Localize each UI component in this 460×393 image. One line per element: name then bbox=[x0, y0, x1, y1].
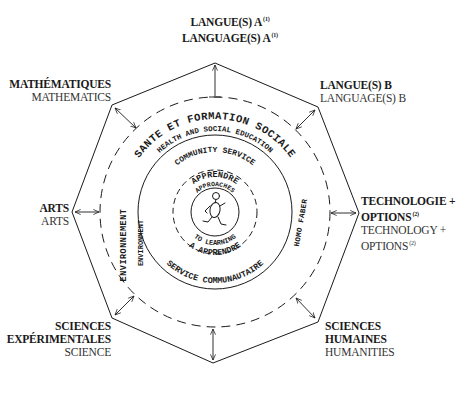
arrow-top-left bbox=[115, 108, 136, 128]
label-sciences-humaines: SCIENCES HUMAINES HUMANITIES bbox=[325, 320, 395, 359]
arrow-bottom-left bbox=[115, 296, 134, 315]
ring-text-service-communautaire: SERVICE COMMUNAUTAIRE bbox=[164, 258, 265, 286]
ring-text-homo-faber: HOMO FABER bbox=[293, 198, 309, 247]
label-arts: ARTS ARTS bbox=[0, 202, 69, 228]
ring-text-environment: ENVIRONMENT bbox=[137, 220, 145, 266]
ring-text-environnement: ENVIRONNEMENT bbox=[119, 209, 129, 282]
arrow-bottom-right bbox=[296, 298, 315, 318]
label-sciences-experimentales: SCIENCES EXPÉRIMENTALES SCIENCE bbox=[0, 320, 111, 359]
curriculum-diagram: SANTE ET FORMATION SOCIALE HEALTH AND SO… bbox=[0, 0, 460, 393]
arrow-top-right bbox=[296, 110, 315, 129]
center-ring bbox=[191, 188, 239, 236]
ring-text-community-service: COMMUNITY SERVICE bbox=[173, 145, 257, 167]
running-figure-icon bbox=[203, 193, 226, 226]
community-service-ring bbox=[138, 135, 292, 289]
label-langue-a: LANGUE(S) A(1) LANGUAGE(S) A(1) bbox=[150, 13, 310, 45]
label-mathematiques: MATHÉMATIQUES MATHEMATICS bbox=[0, 78, 111, 104]
label-langue-b: LANGUE(S) B LANGUAGE(S) B bbox=[320, 79, 406, 105]
ring-text-apprendre: APPRENDRE bbox=[190, 170, 241, 187]
label-technologie: TECHNOLOGIE + OPTIONS(2) TECHNOLOGY + OP… bbox=[361, 195, 455, 253]
